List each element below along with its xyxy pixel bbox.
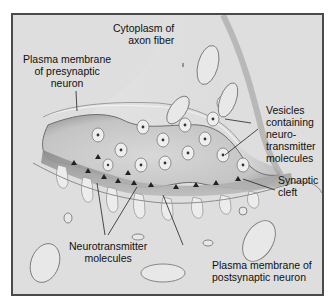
label-line: molecules — [266, 152, 316, 164]
label-cytoplasm-axon: Cytoplasm of axon fiber — [113, 22, 174, 46]
label-line: neuro- — [266, 128, 316, 140]
label-line: molecules — [69, 252, 147, 264]
label-line: containing — [266, 116, 316, 128]
label-line: Vesicles — [266, 104, 316, 116]
label-line: transmitter — [266, 140, 316, 152]
label-vesicles: Vesicles containing neuro- transmitter m… — [266, 104, 316, 164]
label-line: cleft — [278, 186, 318, 198]
label-line: postsynaptic neuron — [212, 271, 312, 283]
label-line: Synaptic — [278, 174, 318, 186]
label-line: of presynaptic — [23, 65, 111, 77]
label-line: axon fiber — [113, 34, 174, 46]
label-line: Neurotransmitter — [69, 240, 147, 252]
label-line: neuron — [23, 77, 111, 89]
label-synaptic-cleft: Synaptic cleft — [278, 174, 318, 198]
label-line: Plasma membrane of — [212, 259, 312, 271]
illustration-frame: Cytoplasm of axon fiber Plasma membrane … — [11, 13, 324, 296]
label-presynaptic-membrane: Plasma membrane of presynaptic neuron — [23, 53, 111, 89]
label-line: Cytoplasm of — [113, 22, 174, 34]
label-postsynaptic-membrane: Plasma membrane of postsynaptic neuron — [212, 259, 312, 283]
label-line: Plasma membrane — [23, 53, 111, 65]
label-neurotransmitter: Neurotransmitter molecules — [69, 240, 147, 264]
